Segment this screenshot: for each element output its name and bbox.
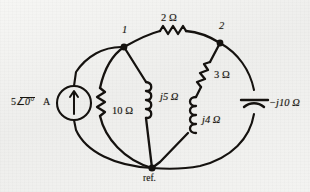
wire-node1-to-l5: [124, 47, 146, 82]
wire-r3-to-j4: [196, 87, 201, 97]
inductor-j5-label: j5 Ω: [160, 92, 178, 103]
capacitor-neg-j10-label: −j10 Ω: [269, 98, 300, 109]
wire-node1-to-r2: [124, 31, 160, 47]
source-angle: 0°: [25, 96, 34, 107]
inductor-j5-coil: [146, 82, 151, 118]
wire-r2-to-node2: [186, 31, 220, 43]
node-1-label: 1: [122, 25, 127, 36]
resistor-2ohm-label: 2 Ω: [161, 13, 177, 24]
node-1-junction-dot: [121, 44, 128, 51]
current-source-unit-label: A: [43, 97, 50, 107]
node-2-junction-dot: [217, 40, 224, 47]
wire-node1-to-r10: [100, 47, 124, 88]
resistor-10ohm-label: 10 Ω: [112, 106, 133, 117]
wire-l5-to-ref: [146, 118, 152, 168]
capacitor-plate-bottom: [244, 103, 264, 107]
current-source-value-label: 5∠0°: [11, 97, 34, 107]
resistor-10ohm-zigzag: [97, 88, 105, 116]
circuit-diagram-figure: 1 2 ref. 2 Ω 3 Ω 10 Ω j5 Ω j4 Ω −j10 Ω 5…: [0, 0, 310, 192]
resistor-2ohm-zigzag: [160, 26, 186, 34]
node-2-label: 2: [219, 21, 224, 32]
resistor-3ohm-zigzag: [197, 62, 210, 87]
inductor-j4-coil: [190, 97, 196, 133]
reference-node-label: ref.: [143, 174, 156, 184]
angle-overbar: [20, 97, 35, 98]
inductor-j4-label: j4 Ω: [202, 115, 220, 126]
wire-node2-to-capacitor: [220, 43, 254, 90]
wire-r10-to-ref: [100, 116, 152, 168]
wire-j4-to-ref: [152, 133, 188, 168]
reference-node-junction-dot: [148, 164, 155, 171]
resistor-3ohm-label: 3 Ω: [214, 70, 230, 81]
source-angle-group: ∠0°: [16, 97, 34, 107]
